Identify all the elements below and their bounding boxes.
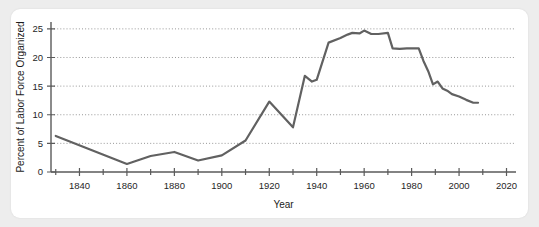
chart-card: 0510152025 18401860188019001920194019601… (11, 9, 528, 218)
y-tick-label-0: 0 (38, 166, 43, 177)
x-tick-label-1840: 1840 (69, 180, 90, 191)
labor-force-organized-line-chart: 0510152025 18401860188019001920194019601… (11, 9, 528, 218)
x-tick-label-1980: 1980 (401, 180, 422, 191)
x-tick-label-1960: 1960 (354, 180, 375, 191)
data-series-line (56, 31, 478, 164)
y-tick-label-5: 5 (38, 138, 43, 149)
y-axis-tick-labels: 0510152025 (32, 23, 43, 177)
y-tick-label-10: 10 (32, 109, 43, 120)
x-tick-label-2020: 2020 (496, 180, 517, 191)
x-axis-tick-labels: 1840186018801900192019401960198020002020 (69, 180, 517, 191)
x-tick-label-1920: 1920 (259, 180, 280, 191)
x-tick-label-1860: 1860 (116, 180, 137, 191)
y-tick-label-20: 20 (32, 52, 43, 63)
gridlines-group (51, 29, 516, 144)
y-tick-label-15: 15 (32, 81, 43, 92)
y-axis-title: Percent of Labor Force Organized (15, 21, 26, 172)
x-tick-label-2000: 2000 (448, 180, 469, 191)
y-tick-label-25: 25 (32, 23, 43, 34)
x-tick-label-1880: 1880 (164, 180, 185, 191)
x-tick-label-1900: 1900 (211, 180, 232, 191)
x-tick-label-1940: 1940 (306, 180, 327, 191)
x-axis-title: Year (273, 199, 294, 210)
